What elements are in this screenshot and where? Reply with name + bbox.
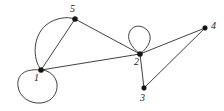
edge-2-3 [140, 54, 144, 88]
graph-figure: 1 2 3 4 5 [0, 0, 224, 111]
graph-canvas [0, 0, 224, 111]
vertex-label-4: 4 [211, 21, 216, 31]
vertex-label-3: 3 [140, 93, 145, 103]
edge-3-4 [144, 28, 205, 88]
vertex-label-2: 2 [134, 57, 139, 67]
vertex-node-1 [38, 67, 43, 72]
edge-1-5-straight [41, 19, 75, 70]
edge-1-2 [41, 54, 140, 70]
edge-5-2 [75, 19, 140, 54]
vertex-label-1: 1 [34, 73, 39, 83]
vertex-node-5 [72, 16, 77, 21]
vertex-label-5: 5 [70, 4, 75, 14]
edge-1-5-curved [35, 18, 75, 70]
vertex-node-3 [142, 86, 147, 91]
vertex-node-4 [203, 26, 208, 31]
